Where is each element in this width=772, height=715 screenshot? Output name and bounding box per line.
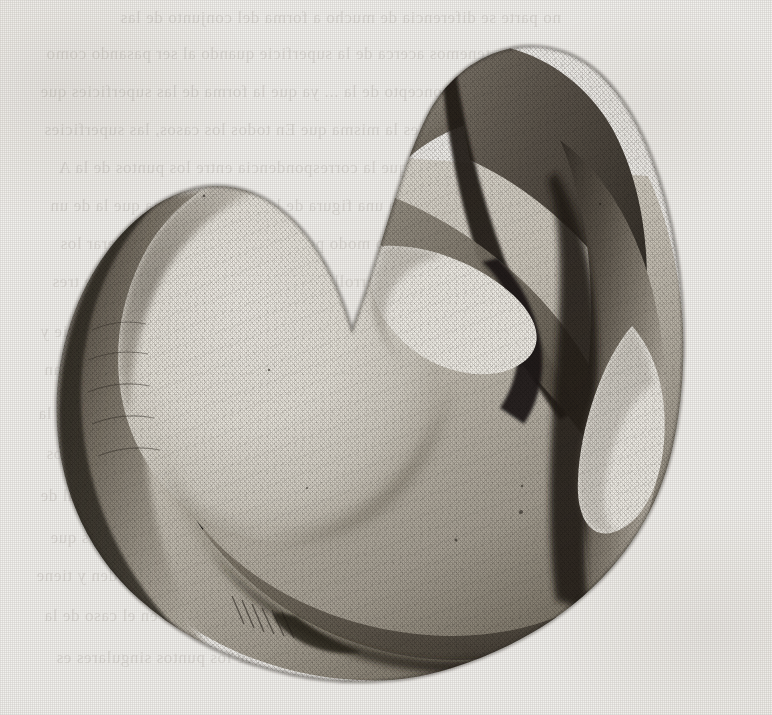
scanned-page: no parte se diferencia de mucho a forma … bbox=[0, 0, 772, 715]
surface-engraving-figure bbox=[0, 0, 772, 715]
engraving-vector-artwork bbox=[0, 0, 772, 715]
